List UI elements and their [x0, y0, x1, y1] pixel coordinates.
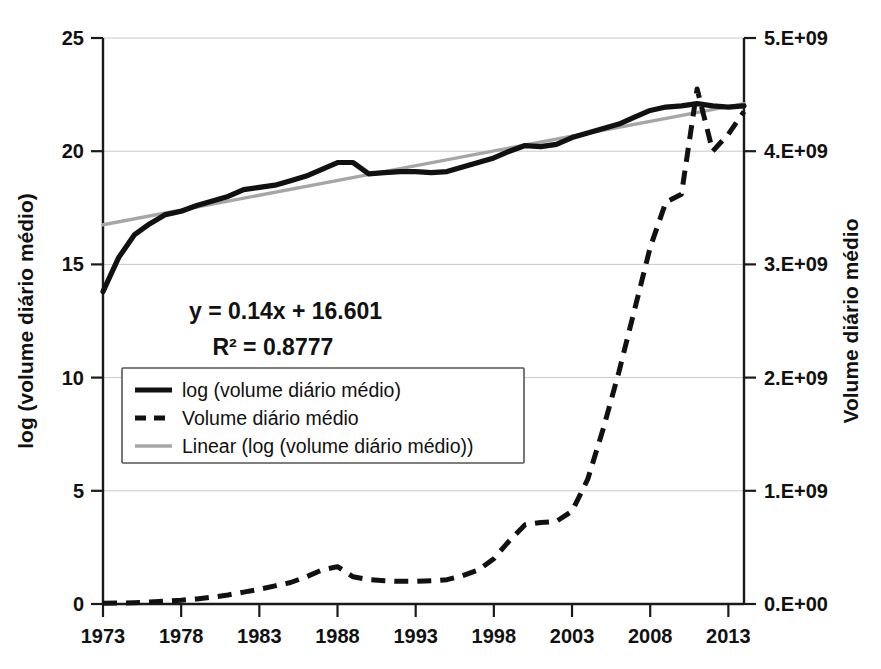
trendline-equation-annotation: y = 0.14x + 16.601 — [189, 298, 382, 324]
y-tick-label: 10 — [62, 367, 84, 389]
y2-tick-label: 2.E+09 — [764, 367, 828, 389]
y2-axis-title: Volume diário médio — [839, 219, 862, 424]
legend-label-log: log (volume diário médio) — [182, 379, 401, 401]
y-axis-title: log (volume diário médio) — [14, 193, 37, 449]
x-tick-label: 1998 — [472, 625, 517, 647]
chart-legend[interactable]: log (volume diário médio) Volume diário … — [122, 368, 524, 463]
y-tick-label: 15 — [62, 253, 84, 275]
x-tick-label: 2008 — [628, 625, 673, 647]
y-tick-label: 25 — [62, 27, 84, 49]
y-tick-label: 0 — [73, 593, 84, 615]
y-axis-ticks — [91, 38, 103, 604]
x-tick-label: 1993 — [393, 625, 438, 647]
y2-tick-label: 5.E+09 — [764, 27, 828, 49]
dual-axis-line-chart: 197319781983198819931998200320082013 051… — [0, 0, 881, 669]
x-tick-label: 1983 — [237, 625, 282, 647]
x-axis-tick-labels: 197319781983198819931998200320082013 — [81, 625, 751, 647]
y2-axis-ticks — [744, 38, 756, 604]
x-tick-label: 2003 — [550, 625, 595, 647]
y2-tick-label: 3.E+09 — [764, 253, 828, 275]
chart-container: 197319781983198819931998200320082013 051… — [0, 0, 881, 669]
x-tick-label: 1988 — [315, 625, 360, 647]
x-tick-label: 1978 — [159, 625, 204, 647]
y2-tick-label: 0.E+00 — [764, 593, 828, 615]
series-volume-diario-medio — [103, 89, 744, 603]
y2-tick-label: 4.E+09 — [764, 140, 828, 162]
x-tick-label: 1973 — [81, 625, 126, 647]
y-tick-label: 5 — [73, 480, 84, 502]
y2-tick-label: 1.E+09 — [764, 480, 828, 502]
legend-label-volume: Volume diário médio — [182, 407, 359, 429]
y-axis-tick-labels: 0510152025 — [62, 27, 84, 615]
y-tick-label: 20 — [62, 140, 84, 162]
x-tick-label: 2013 — [706, 625, 751, 647]
x-axis-ticks — [103, 604, 728, 617]
legend-label-trendline: Linear (log (volume diário médio)) — [182, 435, 474, 457]
y2-axis-tick-labels: 0.E+001.E+092.E+093.E+094.E+095.E+09 — [764, 27, 828, 615]
r-squared-annotation: R² = 0.8777 — [212, 334, 333, 360]
